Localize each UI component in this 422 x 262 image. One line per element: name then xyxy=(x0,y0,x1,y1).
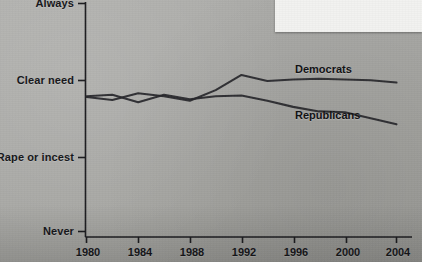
x-tick-label-1996: 1996 xyxy=(284,246,308,258)
series-line-democrats xyxy=(87,75,397,101)
x-axis-ticks xyxy=(87,237,397,243)
series-label-republicans: Republicans xyxy=(295,109,360,121)
x-tick-label-1984: 1984 xyxy=(128,246,152,258)
chart-page: Always Clear need Rape or incest Never 1… xyxy=(0,0,422,262)
x-tick-label-1992: 1992 xyxy=(232,246,256,258)
y-tick-label-always: Always xyxy=(35,0,74,9)
x-tick-label-1988: 1988 xyxy=(180,246,204,258)
y-tick-label-clear-need: Clear need xyxy=(17,74,74,86)
series-label-democrats: Democrats xyxy=(295,63,352,75)
x-tick-label-2000: 2000 xyxy=(336,246,360,258)
y-tick-label-never: Never xyxy=(43,225,74,237)
y-tick-label-rape-or-incest: Rape or incest xyxy=(0,151,74,163)
x-tick-label-2004: 2004 xyxy=(386,246,410,258)
x-tick-label-1980: 1980 xyxy=(76,246,100,258)
callout-box: obtain an abortion as a choice. xyxy=(275,0,422,32)
line-chart-plot xyxy=(0,0,422,262)
